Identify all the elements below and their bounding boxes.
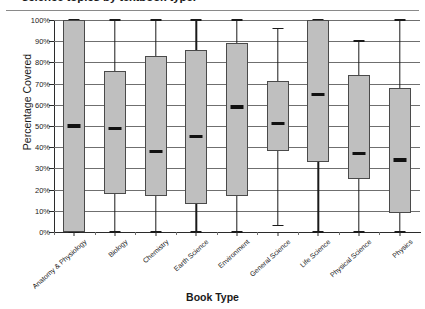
lower-whisker [277, 151, 278, 225]
median-line [312, 93, 325, 96]
lower-whisker [399, 213, 400, 232]
x-axis-minor-tick [135, 232, 136, 235]
x-axis-category-label: General Science [248, 238, 291, 278]
y-axis-tick-labels: 100%90%80%70%60%50%40%30%20%10%0% [12, 20, 50, 232]
x-axis-minor-tick [95, 232, 96, 235]
box-iqr [185, 50, 207, 205]
median-line [68, 124, 81, 127]
median-line [393, 158, 406, 161]
x-axis-category-label: Life Science [299, 238, 332, 269]
y-axis-tick-label: 40% [16, 143, 50, 152]
box-iqr [226, 43, 248, 196]
y-axis-tick-label: 0% [16, 228, 50, 237]
upper-whisker-cap [272, 28, 283, 30]
y-axis-tick-label: 30% [16, 164, 50, 173]
box-iqr [389, 88, 411, 213]
lower-whisker [318, 162, 319, 232]
plot-area [54, 20, 420, 232]
median-line [108, 127, 121, 130]
box-plot [176, 20, 217, 232]
box-plot [54, 20, 95, 232]
box-iqr [348, 75, 370, 179]
y-axis-tick-label: 80% [16, 58, 50, 67]
box-plot [217, 20, 258, 232]
box-iqr [267, 81, 289, 151]
x-axis-category-label: Earth Science [173, 238, 210, 272]
box-iqr [104, 71, 126, 194]
upper-whisker [358, 41, 359, 75]
median-line [352, 152, 365, 155]
lower-whisker [155, 196, 156, 232]
median-line [149, 150, 162, 153]
x-axis-tick-labels: Anatomy & PhysiologyBiologyChemistryEart… [54, 236, 420, 284]
upper-whisker [114, 20, 115, 71]
median-line [230, 105, 243, 108]
y-axis-tick-label: 70% [16, 80, 50, 89]
box-plot [135, 20, 176, 232]
y-axis-tick-label: 60% [16, 101, 50, 110]
x-axis-minor-tick [176, 232, 177, 235]
box-plot [379, 20, 420, 232]
y-axis-tick-label: 100% [16, 16, 50, 25]
lower-whisker-cap [272, 225, 283, 227]
x-axis-minor-tick [217, 232, 218, 235]
upper-whisker [236, 20, 237, 43]
lower-whisker [358, 179, 359, 232]
lower-whisker [196, 204, 197, 232]
x-axis-minor-tick [54, 232, 55, 235]
y-axis-tick-label: 90% [16, 37, 50, 46]
upper-whisker [196, 20, 197, 50]
x-axis-category-label: Chemistry [141, 238, 169, 264]
title-divider [6, 10, 419, 11]
x-axis-category-label: Physics [391, 238, 414, 259]
x-axis-minor-tick [257, 232, 258, 235]
lower-whisker [236, 196, 237, 232]
x-axis-category-label: Biology [107, 238, 129, 259]
box-plot [339, 20, 380, 232]
box-plot [298, 20, 339, 232]
y-axis-tick-label: 50% [16, 122, 50, 131]
upper-whisker-cap [231, 19, 242, 21]
chart-title: science topics by textbook type. [22, 0, 422, 3]
median-line [271, 122, 284, 125]
upper-whisker [155, 20, 156, 56]
box-plot [257, 20, 298, 232]
x-axis-minor-tick [379, 232, 380, 235]
x-axis-category-label: Environment [217, 238, 251, 269]
lower-whisker [114, 194, 115, 232]
upper-whisker-cap [109, 19, 120, 21]
upper-whisker-cap [394, 19, 405, 21]
y-axis-tick-label: 10% [16, 207, 50, 216]
median-line [190, 135, 203, 138]
x-axis-minor-tick [298, 232, 299, 235]
upper-whisker-cap [191, 19, 202, 21]
box-iqr [307, 20, 329, 162]
upper-whisker-cap [150, 19, 161, 21]
upper-whisker-cap [353, 40, 364, 42]
x-axis-minor-tick [339, 232, 340, 235]
upper-whisker [399, 20, 400, 88]
upper-whisker [277, 28, 278, 81]
box-plot [95, 20, 136, 232]
y-axis-tick-label: 20% [16, 186, 50, 195]
x-axis-category-label: Physical Science [329, 238, 373, 279]
x-axis-category-label: Anatomy & Physiology [31, 238, 88, 290]
box-iqr [145, 56, 167, 196]
x-axis-title: Book Type [0, 291, 425, 303]
